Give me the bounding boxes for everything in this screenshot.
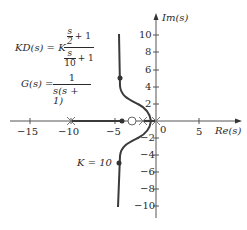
g-numerator: 1: [69, 73, 75, 83]
y-tick-label: 4: [145, 82, 151, 92]
y-tick-label: −6: [140, 167, 155, 177]
x-tick-label: −15: [17, 127, 38, 137]
y-tick-label: −2: [140, 133, 155, 143]
g-denominator: s(s + 1): [53, 86, 91, 106]
y-tick-label: −10: [134, 201, 155, 211]
kd-den-plus: + 1: [78, 54, 94, 63]
root-dot-upper-icon: [118, 76, 123, 81]
real-axis-arrow-icon: [235, 119, 242, 124]
kd-equation-lhs: KD(s) = K: [15, 43, 66, 53]
root-dot-lower-icon: [117, 161, 122, 166]
kd-num-plus: + 1: [75, 32, 91, 41]
y-tick-label: 6: [145, 65, 151, 75]
root-dot-real-icon: [120, 119, 125, 124]
gain-annotation: K = 10: [77, 158, 112, 168]
zero-marker-icon: [128, 117, 136, 125]
kd-denominator: s10 + 1: [64, 49, 94, 68]
root-locus-plot: [0, 0, 247, 230]
y-tick-label: −4: [140, 150, 155, 160]
x-tick-label: −10: [58, 127, 79, 137]
kd-equation-fraction: s2 + 1 s10 + 1: [64, 27, 94, 68]
y-tick-label: −8: [140, 184, 155, 194]
imag-axis-arrow-icon: [154, 13, 159, 20]
root-locus-figure: −15 −10 −5 0 5 Re(s) 10 8 6 4 2 −2 −4 −6…: [0, 0, 247, 230]
y-tick-label: 2: [145, 99, 151, 109]
kd-num-s: s: [68, 27, 73, 36]
kd-num-den: 2: [67, 37, 73, 46]
x-tick-label: 0: [160, 125, 166, 135]
g-equation-lhs: G(s) =: [21, 79, 53, 89]
x-tick-label: −5: [106, 127, 121, 137]
y-axis-label: Im(s): [162, 13, 188, 23]
y-tick-label: 10: [139, 30, 152, 40]
kd-den-s: s: [68, 49, 73, 58]
x-axis-label: Re(s): [215, 126, 241, 136]
kd-den-den: 10: [64, 59, 75, 68]
g-equation-fraction: 1 s(s + 1): [53, 73, 91, 106]
y-tick-label: 8: [145, 47, 151, 57]
x-tick-label: 5: [196, 127, 202, 137]
kd-numerator: s2 + 1: [67, 27, 91, 46]
